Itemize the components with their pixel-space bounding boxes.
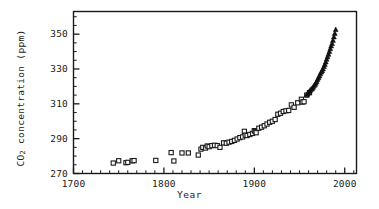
data-point: [132, 159, 136, 163]
data-point: [172, 159, 176, 163]
y-tick-label: 330: [36, 63, 68, 74]
data-point: [196, 153, 200, 157]
data-point: [218, 145, 222, 149]
x-tick-label: 1800: [140, 178, 188, 189]
plot-frame: [74, 12, 357, 174]
x-tick-label: 1700: [50, 178, 98, 189]
y-tick-label: 290: [36, 133, 68, 144]
data-point: [333, 27, 338, 32]
y-tick-label: 350: [36, 28, 68, 39]
data-point: [117, 159, 121, 163]
data-point: [111, 161, 115, 165]
x-tick-label: 2000: [321, 178, 369, 189]
y-tick-label: 310: [36, 98, 68, 109]
co2-concentration-chart: CO2 concentration (ppm) Year 27029031033…: [0, 0, 379, 209]
data-point: [287, 108, 291, 112]
data-point: [154, 158, 158, 162]
series-ice-core: [111, 91, 311, 166]
series-mauna-loa: [304, 27, 338, 97]
data-point: [180, 151, 184, 155]
data-point: [186, 151, 190, 155]
y-tick-label: 270: [36, 168, 68, 179]
data-point: [292, 105, 296, 109]
data-point: [169, 151, 173, 155]
data-point: [302, 100, 306, 104]
x-tick-label: 1900: [230, 178, 278, 189]
data-point: [126, 160, 130, 164]
data-point: [273, 117, 277, 121]
data-point: [254, 131, 258, 135]
